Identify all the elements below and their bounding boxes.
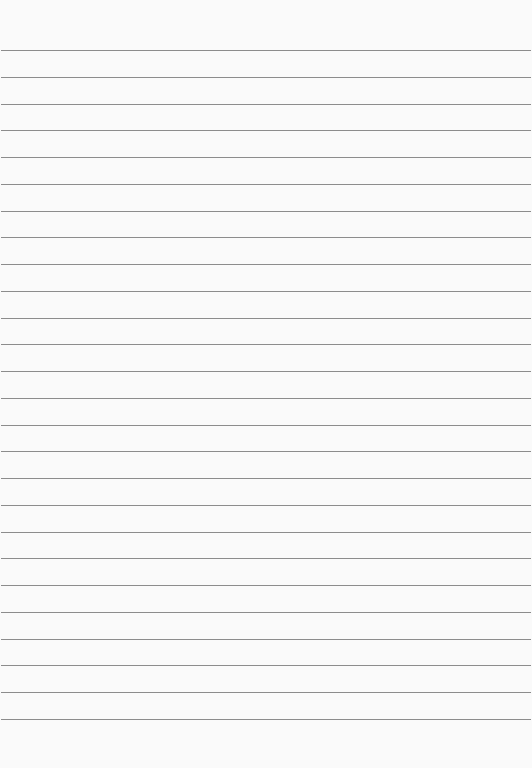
lined-paper-page: [0, 0, 532, 768]
ruled-line: [1, 425, 531, 426]
ruled-line: [1, 344, 531, 345]
ruled-line: [1, 130, 531, 131]
ruled-line: [1, 318, 531, 319]
ruled-line: [1, 211, 531, 212]
ruled-line: [1, 505, 531, 506]
ruled-line: [1, 532, 531, 533]
ruled-line: [1, 264, 531, 265]
ruled-line: [1, 104, 531, 105]
ruled-line: [1, 665, 531, 666]
ruled-line: [1, 639, 531, 640]
ruled-line: [1, 157, 531, 158]
ruled-line: [1, 50, 531, 51]
ruled-line: [1, 558, 531, 559]
ruled-line: [1, 478, 531, 479]
ruled-line: [1, 585, 531, 586]
ruled-line: [1, 612, 531, 613]
ruled-line: [1, 451, 531, 452]
ruled-line: [1, 719, 531, 720]
ruled-line: [1, 371, 531, 372]
ruled-line: [1, 184, 531, 185]
ruled-line: [1, 398, 531, 399]
ruled-line: [1, 77, 531, 78]
ruled-line: [1, 291, 531, 292]
ruled-line: [1, 692, 531, 693]
ruled-line: [1, 237, 531, 238]
